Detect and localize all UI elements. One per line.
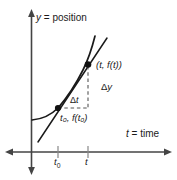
delta-t-label: Δt: [70, 96, 79, 105]
point-t0-marker: [55, 105, 61, 111]
x-axis-label-variable: t: [126, 128, 129, 139]
y-axis-label-variable: y: [36, 12, 41, 23]
y-axis: [28, 9, 35, 175]
y-axis-label: y = position: [36, 13, 87, 23]
delta-y-label: Δy: [101, 82, 112, 92]
x-axis-label: t = time: [126, 129, 159, 139]
x-tick-label-t-variable: t: [85, 156, 88, 167]
delta-t-variable: t: [76, 95, 79, 105]
point-t-label: (t, f(t)): [96, 60, 122, 70]
point-t0-label: t₀, f(t₀): [60, 113, 88, 123]
position-curve: [32, 36, 95, 120]
y-axis-arrow-top: [28, 9, 35, 17]
graph-figure: y = position t = time (t, f(t)) Δy Δt t₀…: [0, 0, 177, 180]
x-tick-label-t0: t0: [54, 157, 60, 170]
x-tick-label-t: t: [85, 157, 88, 167]
secant-line: [38, 38, 107, 142]
x-axis-arrow-right: [164, 149, 172, 156]
point-t-marker: [85, 61, 92, 68]
x-axis-arrow-left: [5, 149, 13, 156]
graph-canvas: [0, 0, 177, 180]
y-axis-arrow-bottom: [28, 167, 35, 175]
y-axis-label-text: = position: [44, 12, 87, 23]
x-tick-label-t0-sub: 0: [57, 162, 61, 169]
x-axis-label-text: = time: [132, 128, 160, 139]
delta-y-variable: y: [107, 81, 112, 92]
